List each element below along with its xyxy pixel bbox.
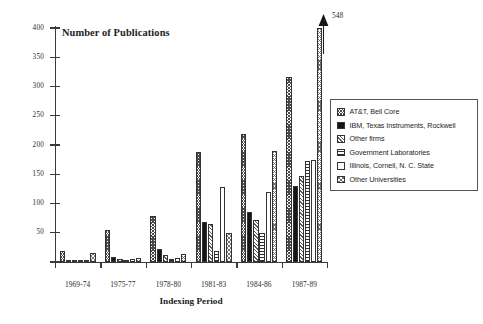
bar bbox=[181, 254, 186, 262]
legend-swatch-icon bbox=[337, 162, 345, 170]
legend: AT&T, Bell CoreIBM, Texas Instruments, R… bbox=[330, 99, 478, 191]
bar bbox=[220, 187, 225, 262]
bar bbox=[90, 253, 95, 262]
bar bbox=[317, 28, 322, 262]
bar bbox=[60, 251, 65, 262]
bar bbox=[253, 220, 258, 262]
bar bbox=[293, 186, 298, 262]
bar bbox=[84, 260, 89, 262]
bar bbox=[241, 134, 246, 262]
legend-swatch-icon bbox=[337, 176, 345, 184]
bar bbox=[286, 77, 291, 262]
chart-canvas: Number of Publications 50100150200250300… bbox=[0, 0, 483, 324]
legend-swatch-icon bbox=[337, 108, 345, 116]
legend-item: Other Universities bbox=[337, 173, 477, 187]
legend-item-label: Other Universities bbox=[350, 175, 406, 184]
bar bbox=[202, 222, 207, 262]
legend-item: Other firms bbox=[337, 132, 477, 146]
x-axis-label: Indexing Period bbox=[55, 296, 327, 306]
bar bbox=[111, 257, 116, 262]
bar bbox=[105, 230, 110, 262]
bar bbox=[299, 176, 304, 262]
bar bbox=[208, 224, 213, 262]
bar bbox=[123, 260, 128, 262]
legend-item-label: Illinois, Cornell, N. C. State bbox=[350, 161, 434, 170]
bar bbox=[72, 260, 77, 262]
legend-item: IBM, Texas Instruments, Rockwell bbox=[337, 119, 477, 133]
bar bbox=[196, 152, 201, 262]
legend-item: Government Laboratories bbox=[337, 146, 477, 160]
bar bbox=[163, 255, 168, 262]
bar bbox=[259, 233, 264, 262]
bar bbox=[305, 161, 310, 262]
bar bbox=[157, 249, 162, 262]
bar bbox=[169, 259, 174, 263]
legend-item: Illinois, Cornell, N. C. State bbox=[337, 159, 477, 173]
legend-swatch-icon bbox=[337, 149, 345, 157]
legend-item-label: Government Laboratories bbox=[350, 148, 430, 157]
legend-item-label: AT&T, Bell Core bbox=[350, 107, 400, 116]
bar bbox=[136, 258, 141, 262]
bar bbox=[66, 260, 71, 262]
overflow-arrow-icon bbox=[318, 14, 329, 54]
annotation-548: 548 bbox=[332, 11, 343, 20]
bar bbox=[266, 192, 271, 262]
bar bbox=[226, 233, 231, 262]
bar bbox=[214, 251, 219, 262]
legend-swatch-icon bbox=[337, 122, 345, 130]
legend-swatch-icon bbox=[337, 135, 345, 143]
bar bbox=[117, 259, 122, 263]
legend-item-label: IBM, Texas Instruments, Rockwell bbox=[350, 121, 456, 130]
bar bbox=[311, 160, 316, 262]
bar bbox=[272, 151, 277, 262]
legend-item-label: Other firms bbox=[350, 134, 385, 143]
bar bbox=[150, 216, 155, 262]
bar bbox=[78, 260, 83, 262]
bar bbox=[130, 259, 135, 262]
legend-item: AT&T, Bell Core bbox=[337, 105, 477, 119]
bar bbox=[247, 212, 252, 262]
bar bbox=[175, 258, 180, 262]
